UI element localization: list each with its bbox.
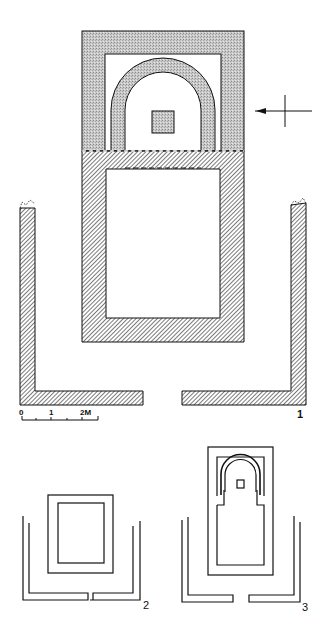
plan-diagram: 0 1 2M 1 2 3 [0, 0, 327, 638]
figure-3-plan: 3 [182, 447, 308, 613]
figure-1-plan: 0 1 2M 1 [19, 31, 312, 420]
figure-2-plan: 2 [23, 495, 149, 611]
scale-tick-1: 1 [49, 408, 54, 417]
fig3-arch-inner [225, 460, 256, 493]
central-square [152, 111, 174, 133]
figure-label-2: 2 [143, 599, 149, 611]
figure-label-3: 3 [302, 601, 308, 613]
broken-wall-top-left [20, 200, 35, 208]
scale-tick-0: 0 [19, 408, 24, 417]
figure-label-1: 1 [297, 408, 303, 420]
fig3-outer-room [208, 447, 273, 575]
fig3-arch [221, 455, 260, 495]
fig2-inner-room [58, 503, 104, 563]
fig3-inner-room [217, 490, 264, 565]
scale-bar: 0 1 2M [19, 408, 98, 420]
scale-tick-2m: 2M [80, 408, 91, 417]
fig3-central-square [237, 480, 244, 488]
fig2-enclosure-left [23, 516, 88, 600]
dashed-threshold [125, 152, 201, 168]
fig3-enclosure-right [249, 516, 300, 602]
fig2-enclosure-right [90, 521, 140, 600]
lower-hatched-wall [82, 151, 244, 342]
arrow-cross-icon [255, 95, 312, 127]
